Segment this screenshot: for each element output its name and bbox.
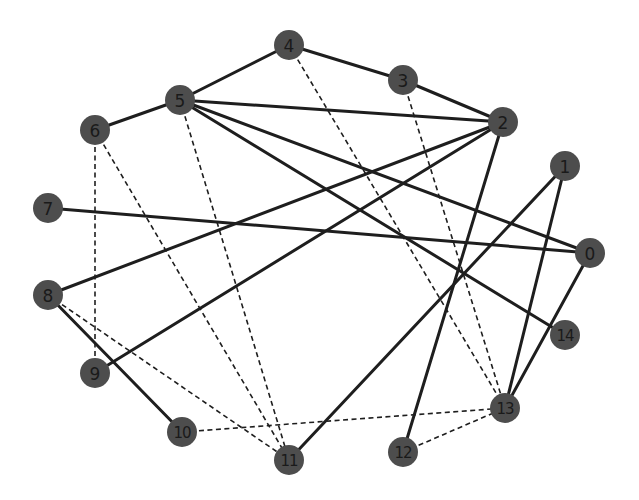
edge-5-0-solid (180, 100, 590, 253)
edge-2-9-solid (95, 122, 503, 373)
node-13: 13 (490, 393, 520, 423)
node-label: 0 (585, 244, 596, 264)
node-label: 13 (496, 400, 514, 418)
edge-5-11-dashed (180, 100, 289, 460)
node-4: 4 (274, 30, 304, 60)
node-label: 5 (175, 91, 186, 111)
node-1: 1 (550, 151, 580, 181)
node-6: 6 (80, 115, 110, 145)
edge-6-11-dashed (95, 130, 289, 460)
edge-1-13-solid (505, 166, 565, 408)
node-label: 8 (43, 286, 54, 306)
edge-12-13-dashed (403, 408, 505, 452)
node-9: 9 (80, 358, 110, 388)
node-10: 10 (167, 417, 197, 447)
node-label: 9 (90, 364, 101, 384)
node-11: 11 (274, 445, 304, 475)
node-label: 11 (280, 452, 298, 470)
node-2: 2 (488, 107, 518, 137)
edge-5-4-solid (180, 45, 289, 100)
node-label: 7 (43, 199, 54, 219)
node-3: 3 (388, 65, 418, 95)
edge-8-10-solid (48, 295, 182, 432)
edge-1-11-solid (289, 166, 565, 460)
node-label: 6 (90, 121, 101, 141)
node-5: 5 (165, 85, 195, 115)
node-label: 10 (173, 424, 191, 442)
network-graph: 01234567891011121314 (0, 0, 639, 500)
node-label: 14 (556, 327, 574, 345)
node-label: 1 (560, 157, 571, 177)
node-label: 12 (394, 444, 412, 462)
node-12: 12 (388, 437, 418, 467)
node-label: 4 (284, 36, 295, 56)
node-0: 0 (575, 238, 605, 268)
node-label: 2 (498, 113, 509, 133)
edge-7-0-solid (48, 208, 590, 253)
node-7: 7 (33, 193, 63, 223)
node-8: 8 (33, 280, 63, 310)
node-label: 3 (398, 71, 409, 91)
node-14: 14 (550, 320, 580, 350)
edge-2-8-solid (48, 122, 503, 295)
